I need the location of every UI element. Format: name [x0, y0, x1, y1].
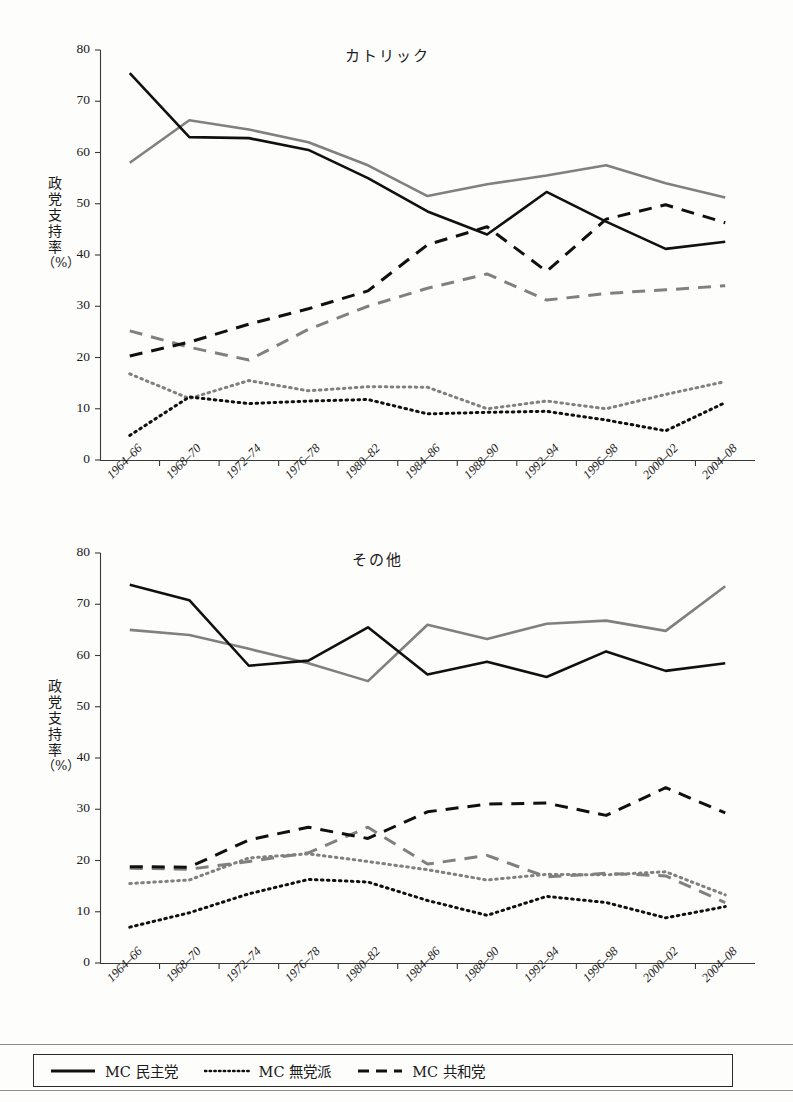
- legend-item-republican[interactable]: MC 共和党: [357, 1060, 485, 1081]
- legend-item-democrat[interactable]: MC 民主党: [50, 1060, 178, 1081]
- y-axis-tick-label: 60: [62, 647, 90, 663]
- series-line: [130, 120, 725, 197]
- y-axis-label-char: 政: [42, 175, 68, 191]
- y-axis-tick-label: 40: [62, 749, 90, 765]
- chart-panel-catholic: カトリック 政 党 支 持 率 （%） 80706050403020100196…: [0, 0, 793, 535]
- series-line: [130, 274, 725, 360]
- legend-label: MC 共和党: [412, 1060, 485, 1081]
- chart-panel-other: その他 政 党 支 持 率 （%） 807060504030201001964–…: [0, 528, 793, 1033]
- y-axis-label-char: 持: [42, 223, 68, 239]
- y-axis-tick-label: 0: [62, 954, 90, 970]
- y-axis-label-char: 政: [42, 678, 68, 694]
- y-axis-tick-label: 70: [62, 595, 90, 611]
- dotted-line-icon: [204, 1065, 250, 1077]
- y-axis-tick-label: 20: [62, 852, 90, 868]
- series-line: [130, 374, 725, 409]
- y-axis-tick-label: 80: [62, 41, 90, 57]
- y-axis-tick-label: 70: [62, 92, 90, 108]
- legend-bottom-rule: [0, 1090, 793, 1091]
- series-line: [130, 73, 725, 249]
- y-axis-tick-label: 60: [62, 144, 90, 160]
- series-line: [130, 397, 725, 435]
- series-line: [130, 585, 725, 677]
- y-axis-tick-label: 40: [62, 246, 90, 262]
- legend-item-independent[interactable]: MC 無党派: [204, 1060, 332, 1081]
- plot-area-catholic: [100, 50, 755, 460]
- y-axis-tick-label: 80: [62, 544, 90, 560]
- y-axis-tick-label: 30: [62, 800, 90, 816]
- plot-area-other: [100, 553, 755, 963]
- y-axis-tick-label: 10: [62, 400, 90, 416]
- series-line: [130, 205, 725, 356]
- legend-label: MC 民主党: [105, 1060, 178, 1081]
- y-axis-tick-label: 10: [62, 903, 90, 919]
- y-axis-tick-label: 20: [62, 349, 90, 365]
- series-line: [130, 788, 725, 867]
- series-line: [130, 827, 725, 902]
- y-axis-tick-label: 0: [62, 451, 90, 467]
- series-line: [130, 854, 725, 895]
- y-axis-tick-label: 30: [62, 297, 90, 313]
- figure-page: カトリック 政 党 支 持 率 （%） 80706050403020100196…: [0, 0, 793, 1102]
- chart-legend: MC 民主党 MC 無党派 MC 共和党: [33, 1054, 733, 1087]
- y-axis-tick-label: 50: [62, 698, 90, 714]
- y-axis-label-char: 持: [42, 726, 68, 742]
- y-axis-tick-label: 50: [62, 195, 90, 211]
- legend-label: MC 無党派: [259, 1060, 332, 1081]
- solid-line-icon: [50, 1065, 96, 1077]
- series-line: [130, 879, 725, 927]
- dashed-line-icon: [357, 1065, 403, 1077]
- legend-top-rule: [0, 1044, 793, 1045]
